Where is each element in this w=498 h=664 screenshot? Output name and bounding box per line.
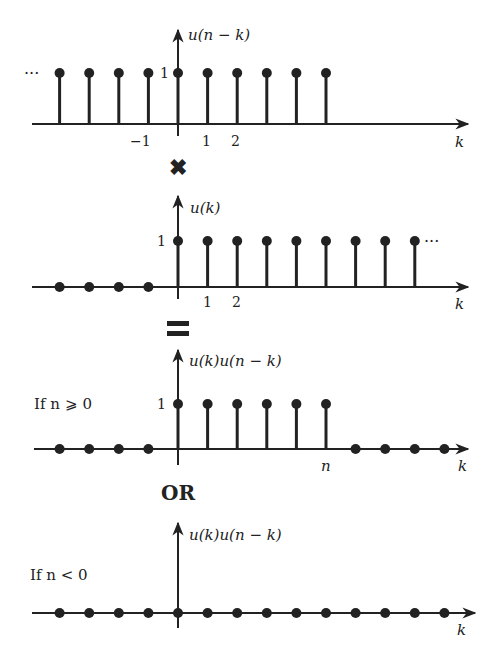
stem-head	[321, 68, 331, 78]
tick-label-1: 1	[202, 133, 211, 149]
convolution-step-diagram: ··· 1 u(n − k) −1 1 2 k ✖ ··· 1 u(k) 1 2…	[0, 0, 498, 664]
stem-head	[321, 236, 331, 246]
zero-sample-dot	[114, 282, 124, 292]
or-label: OR	[161, 481, 195, 505]
stem-head	[262, 236, 272, 246]
panel-product-n-neg: If n < 0 u(k)u(n − k) k	[30, 523, 475, 639]
stem-head	[203, 399, 213, 409]
zero-sample-dot	[143, 282, 153, 292]
zero-sample-dot	[55, 444, 65, 454]
zero-sample-dot	[203, 608, 213, 618]
stem-head	[291, 236, 301, 246]
zero-sample-dot	[439, 444, 449, 454]
zero-sample-dot	[84, 444, 94, 454]
condition-label: If n ⩾ 0	[34, 395, 92, 413]
stem-head	[232, 68, 242, 78]
stem-head	[143, 68, 153, 78]
stem-head	[173, 236, 183, 246]
tick-label-2: 2	[232, 294, 241, 310]
zero-sample-dot	[291, 608, 301, 618]
stem-head	[55, 68, 65, 78]
stem-head	[291, 68, 301, 78]
ellipsis-right: ···	[424, 232, 439, 251]
zero-sample-dot	[84, 608, 94, 618]
tick-label-minus1: −1	[130, 133, 151, 149]
zero-sample-dot	[321, 608, 331, 618]
ylabel: u(k)u(n − k)	[189, 526, 282, 544]
zero-sample-dot	[232, 608, 242, 618]
equals-icon	[167, 321, 189, 336]
tick-label-1: 1	[203, 294, 212, 310]
ylabel: u(k)	[190, 199, 221, 217]
stem-head	[410, 236, 420, 246]
stem-head	[173, 399, 183, 409]
stem-head	[351, 236, 361, 246]
stem-head	[84, 68, 94, 78]
stem-head	[262, 399, 272, 409]
stem-head	[203, 236, 213, 246]
zero-sample-dot	[439, 608, 449, 618]
stem-head	[114, 68, 124, 78]
panel-product-n-nonneg: If n ⩾ 0 1 u(k)u(n − k) n k	[34, 350, 468, 475]
amplitude-label: 1	[160, 65, 169, 81]
stem-head	[291, 399, 301, 409]
stems	[55, 399, 450, 454]
zero-sample-dot	[84, 282, 94, 292]
multiply-icon: ✖	[169, 154, 187, 180]
tick-label-2: 2	[231, 133, 240, 149]
tick-label-n: n	[321, 457, 331, 475]
zero-sample-dot	[143, 608, 153, 618]
xlabel: k	[455, 133, 464, 151]
stems	[55, 68, 331, 124]
stem-head	[232, 236, 242, 246]
amplitude-label: 1	[157, 396, 166, 412]
stem-head	[173, 68, 183, 78]
zero-sample-dot	[380, 608, 390, 618]
zero-sample-dot	[173, 608, 183, 618]
panel-shifted-step: ··· 1 u(n − k) −1 1 2 k	[24, 26, 468, 151]
zero-sample-dot	[410, 608, 420, 618]
stem-head	[262, 68, 272, 78]
zero-sample-dot	[351, 608, 361, 618]
zero-sample-dot	[55, 282, 65, 292]
ylabel: u(n − k)	[188, 26, 250, 44]
stem-head	[321, 399, 331, 409]
ylabel: u(k)u(n − k)	[189, 352, 282, 370]
zero-sample-dot	[114, 444, 124, 454]
xlabel: k	[457, 621, 466, 639]
zero-sample-dot	[55, 608, 65, 618]
amplitude-label: 1	[157, 233, 166, 249]
zero-sample-dot	[262, 608, 272, 618]
xlabel: k	[458, 457, 467, 475]
stem-head	[232, 399, 242, 409]
xlabel: k	[455, 295, 464, 313]
stem-head	[203, 68, 213, 78]
zero-sample-dot	[143, 444, 153, 454]
zero-sample-dot	[410, 444, 420, 454]
panel-unit-step: ··· 1 u(k) 1 2 k	[32, 196, 468, 313]
zero-sample-dot	[114, 608, 124, 618]
zero-sample-dot	[351, 444, 361, 454]
ellipsis-left: ···	[24, 64, 39, 83]
condition-label: If n < 0	[30, 566, 88, 584]
stem-head	[380, 236, 390, 246]
stems	[55, 236, 420, 292]
zero-sample-dot	[380, 444, 390, 454]
